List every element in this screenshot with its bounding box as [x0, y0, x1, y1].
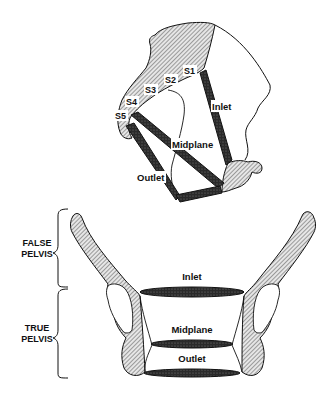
label-s5: S5 [115, 111, 126, 121]
false-pelvis-label-2: PELVIS [21, 249, 52, 259]
label-s3: S3 [145, 85, 156, 95]
frontal-inlet-plane [140, 287, 244, 297]
sagittal-inlet-label: Inlet [212, 101, 232, 112]
false-pelvis-label-1: FALSE [22, 238, 51, 248]
true-pelvis-label-1: TRUE [25, 323, 50, 333]
frontal-midplane-plane [151, 340, 233, 348]
outlet-base [176, 186, 222, 202]
true-pelvis-label-2: PELVIS [21, 334, 52, 344]
label-s1: S1 [184, 66, 195, 76]
frontal-midplane-label: Midplane [171, 324, 212, 335]
frontal-view: FALSE PELVIS TRUE PELVIS Inlet Midplane … [21, 209, 315, 378]
sagittal-midplane-label: Midplane [172, 139, 213, 150]
sagittal-outlet-label: Outlet [137, 172, 165, 183]
inlet-plane-bar [200, 70, 232, 165]
label-s2: S2 [165, 75, 176, 85]
outlet-plane-bar [126, 123, 180, 200]
frontal-inlet-label: Inlet [182, 271, 202, 282]
pelvis-diagram: S1 S2 S3 S4 S5 Inlet Midplane Outlet FAL… [0, 0, 336, 404]
label-s4: S4 [126, 97, 137, 107]
true-pelvis-brace [53, 289, 68, 378]
sagittal-view: S1 S2 S3 S4 S5 Inlet Midplane Outlet [114, 22, 270, 202]
frontal-outlet-plane [144, 369, 240, 377]
frontal-outlet-label: Outlet [178, 353, 206, 364]
pubic-symphysis [222, 161, 262, 192]
false-pelvis-brace [53, 209, 68, 287]
